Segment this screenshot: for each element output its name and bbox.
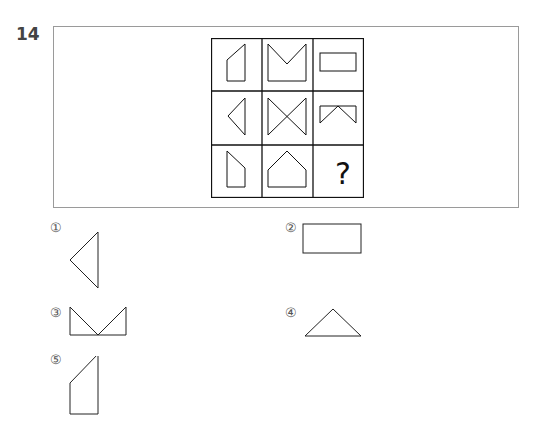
option-2-label: ② xyxy=(285,220,297,235)
option-3-label: ③ xyxy=(50,305,62,320)
left-triangle-icon xyxy=(66,228,106,292)
cell-shape-r3c2 xyxy=(268,151,306,187)
cell-shape-r2c2 xyxy=(268,98,306,135)
cell-shape-r2c1 xyxy=(228,98,245,135)
question-number: 14 xyxy=(16,24,40,44)
double-triangle-icon xyxy=(66,305,132,339)
cell-shape-r2c3 xyxy=(320,106,356,123)
puzzle-grid: ? xyxy=(211,38,364,198)
cell-shape-r1c2 xyxy=(268,44,306,81)
rectangle-icon xyxy=(301,220,365,258)
pentagon-cut-icon xyxy=(66,356,106,422)
cell-shape-r1c1 xyxy=(227,44,245,81)
up-triangle-icon xyxy=(301,305,367,339)
cell-shape-r3c1 xyxy=(227,151,245,187)
cell-shape-r1c3 xyxy=(320,53,356,71)
option-1-label: ① xyxy=(50,220,62,235)
missing-cell-question-mark: ? xyxy=(335,156,351,191)
option-5-label: ⑤ xyxy=(50,352,62,367)
option-4-label: ④ xyxy=(285,305,297,320)
